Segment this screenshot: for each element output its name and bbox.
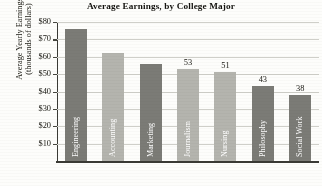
bar-category-label: Nursing (220, 131, 229, 157)
y-axis-tick (53, 39, 57, 40)
bar-category-label: Social Work (295, 116, 304, 157)
bar[interactable]: Marketing (140, 64, 162, 161)
bar-category-label: Philosophy (258, 120, 267, 157)
y-axis-tick (53, 22, 57, 23)
y-axis-tick-label: $50 (23, 69, 51, 78)
y-axis-tick-label: $20 (23, 121, 51, 130)
plot-area: EngineeringAccountingMarketingJournalism… (57, 22, 319, 161)
bar[interactable]: Social Work (289, 95, 311, 161)
y-axis-tick (53, 144, 57, 145)
bar[interactable]: Engineering (65, 29, 87, 161)
bar[interactable]: Accounting (102, 53, 124, 161)
y-axis-tick-label: $80 (23, 17, 51, 26)
bar-value-label: 53 (171, 58, 205, 67)
y-axis-tick (53, 92, 57, 93)
gridline (57, 22, 319, 23)
bar[interactable]: Journalism (177, 69, 199, 161)
bar[interactable]: Philosophy (252, 86, 274, 161)
bar-category-label: Journalism (183, 121, 192, 157)
y-axis-tick-label: $70 (23, 34, 51, 43)
bar-category-label: Engineering (71, 117, 80, 157)
x-axis-line (56, 161, 319, 163)
bar-value-label: 38 (283, 84, 317, 93)
y-axis-tick (53, 57, 57, 58)
bar-category-label: Marketing (146, 123, 155, 157)
y-axis-tick (53, 109, 57, 110)
bar-value-label: 51 (208, 61, 242, 70)
y-axis-tick-label: $60 (23, 52, 51, 61)
chart-container: Average Earnings, by College Major Avera… (0, 0, 322, 186)
y-axis-tick (53, 126, 57, 127)
bar-category-label: Accounting (108, 119, 117, 157)
gridline (57, 39, 319, 40)
y-axis-tick-label: $10 (23, 139, 51, 148)
chart-title: Average Earnings, by College Major (0, 1, 322, 11)
y-axis-tick (53, 74, 57, 75)
bar[interactable]: Nursing (214, 72, 236, 161)
y-axis-tick-label: $30 (23, 104, 51, 113)
y-axis-tick-label: $40 (23, 87, 51, 96)
bar-value-label: 43 (246, 75, 280, 84)
